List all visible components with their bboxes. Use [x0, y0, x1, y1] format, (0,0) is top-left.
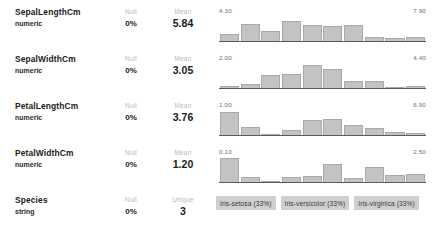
histogram-bar [282, 74, 301, 88]
axis-min-label: 0.10 [219, 148, 232, 155]
column-row[interactable]: Species string Null 0% Unique 3 Iris-set… [0, 188, 433, 235]
histogram-bars [219, 64, 426, 89]
main-stat: Mean 3.76 [154, 101, 212, 124]
histogram-chart[interactable]: 4.30 7.90 [216, 7, 429, 47]
histogram-bar [323, 164, 342, 182]
histogram-axis: 0.10 2.50 [216, 148, 429, 158]
histogram-bar [365, 167, 384, 182]
field-info: PetalLengthCm numeric [0, 101, 108, 123]
null-stat: Null 0% [108, 195, 154, 218]
column-row[interactable]: PetalLengthCm numeric Null 0% Mean 3.76 … [0, 94, 433, 141]
null-label: Null [108, 101, 154, 111]
field-name: PetalWidthCm [15, 148, 108, 159]
histogram-bar [365, 37, 384, 41]
null-stat: Null 0% [108, 148, 154, 171]
histogram-bar [220, 86, 239, 88]
histogram-bar [303, 25, 322, 42]
main-stat-label: Mean [154, 148, 212, 158]
null-value: 0% [108, 158, 154, 171]
histogram-bar [282, 177, 301, 182]
field-info: PetalWidthCm numeric [0, 148, 108, 170]
field-info: SepalWidthCm numeric [0, 54, 108, 76]
null-label: Null [108, 148, 154, 158]
histogram-bar [385, 38, 404, 41]
histogram-bar [406, 37, 425, 41]
histogram-bar [261, 134, 280, 135]
histogram-bar [406, 133, 425, 135]
histogram-bar [220, 112, 239, 135]
main-stat-label: Mean [154, 7, 212, 17]
category-chip[interactable]: Iris-versicolor (33%) [281, 196, 350, 210]
main-stat-value: 3.76 [154, 111, 212, 124]
field-type: numeric [15, 66, 108, 76]
histogram-bar [303, 120, 322, 135]
main-stat-label: Mean [154, 54, 212, 64]
histogram-bar [241, 127, 260, 135]
category-chip[interactable]: Iris-setosa (33%) [216, 196, 276, 210]
histogram-bars [219, 158, 426, 183]
histogram-chart[interactable]: 1.00 6.90 [216, 101, 429, 141]
histogram-axis: 1.00 6.90 [216, 101, 429, 111]
histogram-bar [303, 65, 322, 88]
main-stat-value: 5.84 [154, 17, 212, 30]
null-label: Null [108, 54, 154, 64]
histogram-bar [220, 158, 239, 182]
histogram-bar [344, 178, 363, 182]
main-stat: Unique 3 [154, 195, 212, 218]
null-label: Null [108, 7, 154, 17]
field-type: numeric [15, 113, 108, 123]
field-name: PetalLengthCm [15, 101, 108, 112]
histogram-bar [323, 69, 342, 88]
dataset-column-profile-panel: SepalLengthCm numeric Null 0% Mean 5.84 … [0, 0, 433, 251]
histogram-axis: 2.00 4.40 [216, 54, 429, 64]
histogram-bar [261, 181, 280, 182]
field-info: Species string [0, 195, 108, 217]
main-stat-value: 1.20 [154, 158, 212, 171]
axis-min-label: 4.30 [219, 7, 232, 14]
main-stat-label: Unique [154, 195, 212, 205]
field-name: Species [15, 195, 108, 206]
histogram-bar [282, 21, 301, 41]
column-row[interactable]: SepalLengthCm numeric Null 0% Mean 5.84 … [0, 0, 433, 47]
category-chip-list: Iris-setosa (33%) Iris-versicolor (33%) … [216, 195, 429, 210]
axis-max-label: 2.50 [413, 148, 426, 155]
histogram-bar [385, 132, 404, 135]
histogram-bar [365, 81, 384, 88]
null-value: 0% [108, 205, 154, 218]
null-value: 0% [108, 64, 154, 77]
histogram-bar [282, 130, 301, 135]
histogram-bar [365, 128, 384, 135]
histogram-bar [344, 125, 363, 135]
null-stat: Null 0% [108, 7, 154, 30]
histogram-bar [241, 84, 260, 88]
null-label: Null [108, 195, 154, 205]
histogram-chart[interactable]: 0.10 2.50 [216, 148, 429, 188]
column-row[interactable]: PetalWidthCm numeric Null 0% Mean 1.20 0… [0, 141, 433, 188]
histogram-bar [323, 26, 342, 41]
histogram-bar [344, 25, 363, 41]
histogram-chart[interactable]: 2.00 4.40 [216, 54, 429, 94]
histogram-bars [219, 111, 426, 136]
histogram-bar [406, 86, 425, 88]
null-value: 0% [108, 111, 154, 124]
field-name: SepalWidthCm [15, 54, 108, 65]
histogram-bar [220, 34, 239, 41]
null-stat: Null 0% [108, 101, 154, 124]
histogram-bar [261, 31, 280, 42]
field-name: SepalLengthCm [15, 7, 108, 18]
histogram-bar [385, 87, 404, 88]
axis-max-label: 7.90 [413, 7, 426, 14]
null-value: 0% [108, 17, 154, 30]
field-info: SepalLengthCm numeric [0, 7, 108, 29]
category-chip[interactable]: Iris-virginica (33%) [354, 196, 419, 210]
main-stat: Mean 1.20 [154, 148, 212, 171]
field-type: numeric [15, 19, 108, 29]
main-stat: Mean 3.05 [154, 54, 212, 77]
histogram-axis: 4.30 7.90 [216, 7, 429, 17]
histogram-bars [219, 17, 426, 42]
main-stat-label: Mean [154, 101, 212, 111]
axis-max-label: 4.40 [413, 54, 426, 61]
main-stat: Mean 5.84 [154, 7, 212, 30]
histogram-bar [344, 81, 363, 88]
column-row[interactable]: SepalWidthCm numeric Null 0% Mean 3.05 2… [0, 47, 433, 94]
